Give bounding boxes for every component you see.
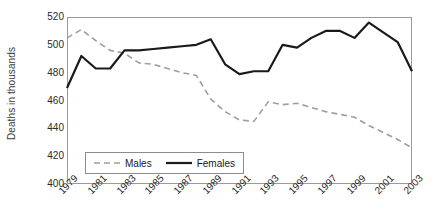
x-axis-tick-labels: 1979198119831985198719891991199319951997… [0, 0, 435, 223]
x-tick-label: 1979 [57, 173, 80, 196]
x-tick-label: 1983 [115, 173, 138, 196]
x-tick-label: 2001 [373, 173, 396, 196]
x-tick-label: 1991 [230, 173, 253, 196]
x-tick-label: 1993 [258, 173, 281, 196]
x-tick-label: 2003 [402, 173, 425, 196]
solid-line-icon [166, 158, 192, 168]
legend-item-females: Females [166, 158, 235, 169]
x-tick-label: 1995 [287, 173, 310, 196]
x-tick-label: 1987 [172, 173, 195, 196]
x-tick-label: 1981 [86, 173, 109, 196]
chart-legend: Males Females [85, 152, 244, 174]
x-tick-label: 1989 [201, 173, 224, 196]
x-tick-label: 1999 [345, 173, 368, 196]
legend-item-males: Males [94, 158, 152, 169]
chart-container: Deaths in thousands 52050048046044042040… [0, 0, 435, 223]
x-tick-label: 1997 [316, 173, 339, 196]
legend-label-females: Females [197, 158, 235, 169]
dashed-line-icon [94, 158, 120, 168]
x-tick-label: 1985 [143, 173, 166, 196]
legend-label-males: Males [125, 158, 152, 169]
